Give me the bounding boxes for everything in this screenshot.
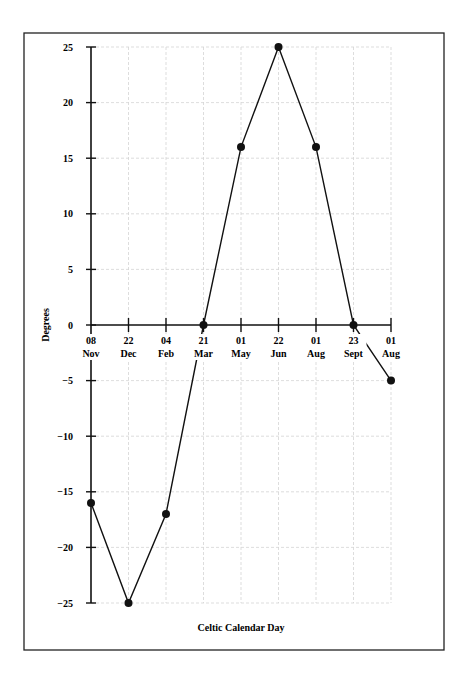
svg-text:Aug: Aug — [382, 348, 400, 359]
data-point — [275, 43, 283, 51]
y-tick-label: −20 — [57, 542, 73, 553]
x-tick-label: 01Aug — [303, 334, 329, 360]
svg-text:22: 22 — [124, 335, 134, 346]
x-tick-label: 21Mar — [191, 334, 217, 360]
svg-text:Jun: Jun — [270, 348, 287, 359]
y-tick-label: −10 — [57, 431, 73, 442]
x-axis-title: Celtic Calendar Day — [197, 622, 284, 633]
x-tick-label: 01Aug — [378, 334, 404, 360]
y-tick-label: −5 — [62, 375, 73, 386]
y-tick-label: 25 — [63, 42, 73, 53]
y-tick-label: 15 — [63, 153, 73, 164]
y-tick-label: 0 — [68, 320, 73, 331]
y-axis-title: Degrees — [40, 308, 51, 342]
data-point — [237, 143, 245, 151]
svg-text:01: 01 — [236, 335, 246, 346]
svg-text:22: 22 — [274, 335, 284, 346]
y-tick-label: −25 — [57, 598, 73, 609]
chart: 2520151050−5−10−15−20−2508Nov22Dec04Feb2… — [0, 0, 465, 677]
svg-text:08: 08 — [86, 335, 96, 346]
x-tick-label: 22Dec — [116, 334, 142, 360]
x-tick-label: 08Nov — [78, 334, 104, 360]
svg-text:01: 01 — [311, 335, 321, 346]
y-tick-label: 10 — [63, 208, 73, 219]
x-tick-label: 01May — [228, 334, 254, 360]
axes — [86, 47, 391, 603]
svg-text:Nov: Nov — [82, 348, 99, 359]
svg-text:21: 21 — [199, 335, 209, 346]
svg-text:May: May — [231, 348, 250, 359]
data-point — [200, 321, 208, 329]
y-tick-label: −15 — [57, 486, 73, 497]
data-point — [162, 510, 170, 518]
svg-text:01: 01 — [386, 335, 396, 346]
y-tick-label: 5 — [68, 264, 73, 275]
svg-text:Mar: Mar — [194, 348, 213, 359]
x-tick-label: 22Jun — [266, 334, 292, 360]
x-tick-label: 04Feb — [153, 334, 179, 360]
svg-text:Feb: Feb — [158, 348, 175, 359]
y-tick-label: 20 — [63, 97, 73, 108]
data-point — [350, 321, 358, 329]
data-point — [125, 599, 133, 607]
x-tick-label: 23Sept — [341, 334, 367, 360]
svg-text:04: 04 — [161, 335, 171, 346]
svg-text:23: 23 — [349, 335, 359, 346]
svg-text:Aug: Aug — [307, 348, 325, 359]
data-point — [387, 377, 395, 385]
data-point — [87, 499, 95, 507]
data-point — [312, 143, 320, 151]
svg-text:Dec: Dec — [120, 348, 137, 359]
svg-text:Sept: Sept — [344, 348, 364, 359]
